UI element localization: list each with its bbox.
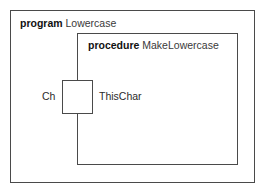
program-keyword: program	[20, 17, 63, 29]
actual-parameter-label: Ch	[42, 91, 55, 102]
program-name-text: Lowercase	[66, 17, 117, 29]
diagram-canvas: program Lowercase procedure MakeLowercas…	[0, 0, 268, 195]
procedure-name-text: MakeLowercase	[142, 39, 218, 51]
procedure-keyword: procedure	[88, 39, 139, 51]
program-label: program Lowercase	[20, 18, 116, 29]
parameter-passing-box	[62, 80, 93, 114]
procedure-label: procedure MakeLowercase	[88, 40, 219, 51]
formal-parameter-label: ThisChar	[99, 91, 142, 102]
